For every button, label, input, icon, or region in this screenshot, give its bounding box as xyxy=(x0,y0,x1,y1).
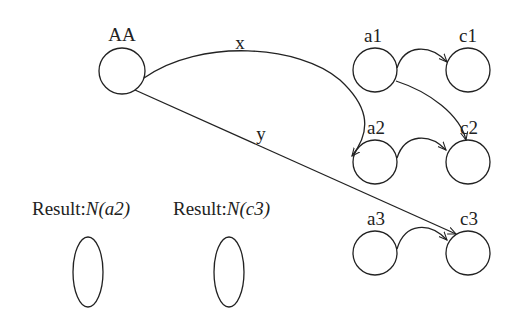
edge-a2-c2 xyxy=(397,138,446,158)
node-a1 xyxy=(353,48,397,92)
node-label-AA: AA xyxy=(108,24,136,45)
result-value-1: N(a2) xyxy=(85,198,130,220)
edge-a3-c3 xyxy=(397,227,447,249)
result-value-2: N(c3) xyxy=(226,198,270,220)
node-label-a2: a2 xyxy=(367,117,385,138)
edge-label-y: y xyxy=(256,123,266,144)
result-ellipse-1 xyxy=(73,237,103,307)
node-label-a3: a3 xyxy=(367,208,385,229)
node-label-c1: c1 xyxy=(459,25,477,46)
node-a2 xyxy=(353,140,397,184)
node-a3 xyxy=(353,231,397,275)
result-ellipse-2 xyxy=(214,237,244,307)
node-c1 xyxy=(446,48,490,92)
result-prefix-1: Result: xyxy=(32,198,86,219)
edge-AA-a2 xyxy=(144,51,365,156)
node-AA xyxy=(99,48,145,94)
node-c3 xyxy=(446,231,490,275)
diagram-canvas: AA a1 c1 a2 c2 a3 c3 x y Result:N(a2) Re… xyxy=(0,0,516,309)
edge-label-x: x xyxy=(235,32,245,53)
node-label-c2: c2 xyxy=(460,117,478,138)
result-prefix-2: Result: xyxy=(173,198,227,219)
edge-a1-c2 xyxy=(396,81,466,140)
node-label-c3: c3 xyxy=(460,208,478,229)
result-label-1: Result:N(a2) xyxy=(32,198,130,220)
node-c2 xyxy=(446,140,490,184)
edge-a1-c1 xyxy=(397,49,447,68)
node-label-a1: a1 xyxy=(364,25,382,46)
result-label-2: Result:N(c3) xyxy=(173,198,270,220)
